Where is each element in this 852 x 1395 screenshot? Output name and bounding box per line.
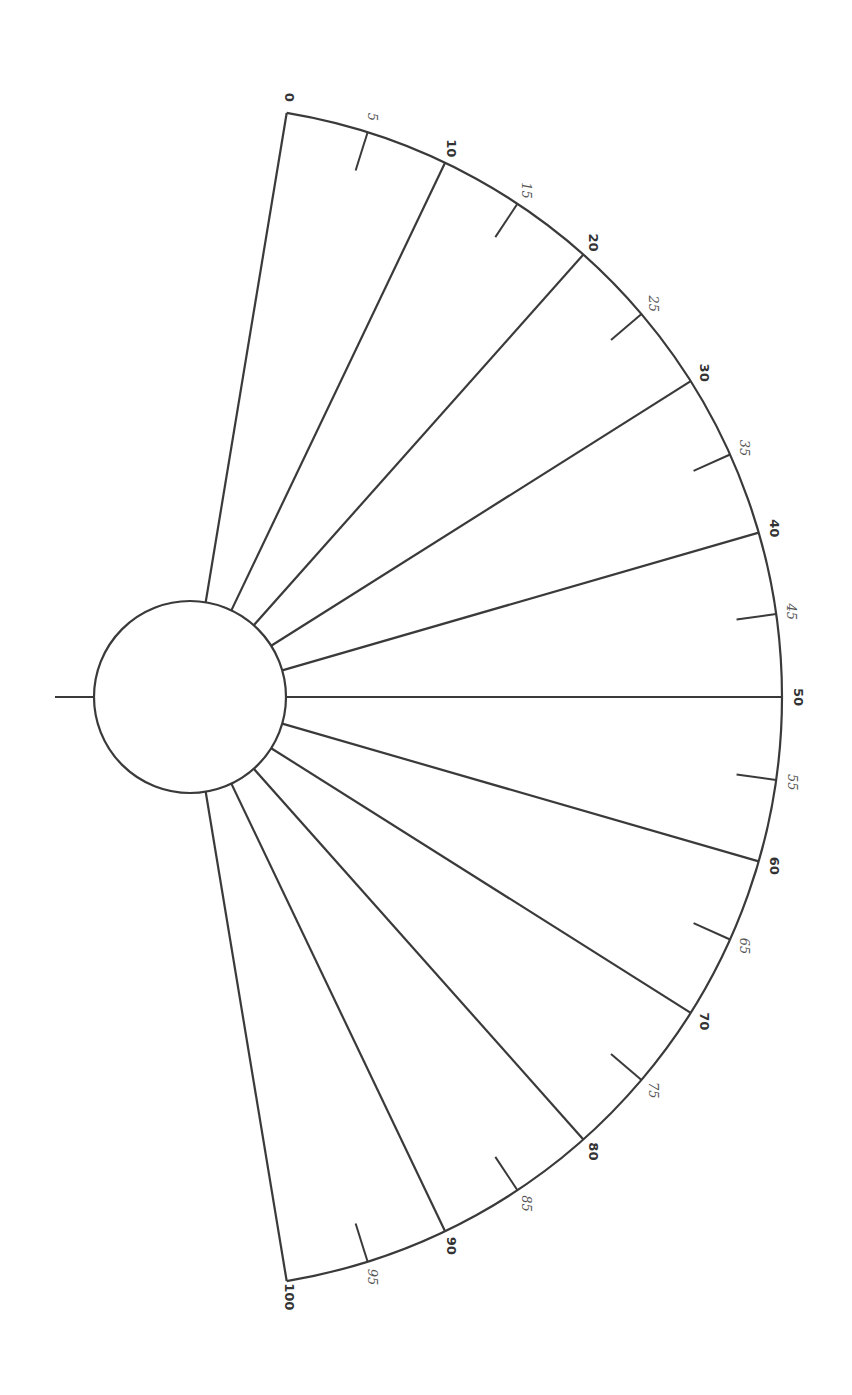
- minor-label-65: 65: [737, 938, 752, 955]
- minor-tick-65: [694, 923, 730, 939]
- minor-label-5: 5: [365, 113, 380, 121]
- major-label-20: 20: [586, 234, 601, 252]
- minor-label-45: 45: [784, 602, 799, 620]
- minor-tick-5: [356, 132, 368, 170]
- minor-tick-35: [694, 455, 730, 471]
- scale-dial: 0102030405060708090100515253545556575859…: [0, 0, 852, 1395]
- minor-tick-85: [495, 1157, 517, 1190]
- minor-tick-45: [737, 614, 777, 620]
- major-label-90: 90: [444, 1237, 459, 1255]
- major-label-70: 70: [697, 1012, 712, 1030]
- minor-tick-55: [737, 774, 777, 780]
- minor-label-15: 15: [519, 182, 534, 199]
- major-spoke-20: [254, 255, 584, 626]
- major-spoke-60: [282, 724, 758, 862]
- major-label-30: 30: [697, 364, 712, 382]
- spokes-group: [206, 113, 782, 1281]
- minor-tick-25: [611, 314, 642, 340]
- minor-label-85: 85: [519, 1195, 534, 1212]
- minor-label-35: 35: [737, 440, 752, 457]
- minor-tick-95: [356, 1224, 368, 1262]
- major-spoke-90: [231, 784, 445, 1232]
- major-spoke-100: [206, 792, 287, 1281]
- major-label-60: 60: [767, 857, 782, 875]
- major-label-50: 50: [791, 688, 806, 706]
- major-spoke-0: [206, 113, 287, 602]
- minor-label-55: 55: [784, 774, 799, 791]
- center-hub-circle: [94, 601, 286, 793]
- major-label-0: 0: [282, 93, 297, 102]
- minor-label-25: 25: [646, 294, 661, 312]
- major-label-100: 100: [282, 1283, 297, 1310]
- major-label-10: 10: [444, 139, 459, 157]
- minor-label-75: 75: [646, 1082, 661, 1099]
- major-spoke-70: [271, 748, 691, 1013]
- major-spoke-40: [282, 533, 758, 671]
- minor-label-95: 95: [365, 1269, 380, 1286]
- protractor-diagram: 0102030405060708090100515253545556575859…: [0, 0, 852, 1395]
- scale-labels-group: 0102030405060708090100515253545556575859…: [282, 93, 806, 1311]
- major-spoke-30: [271, 381, 691, 646]
- major-label-40: 40: [767, 519, 782, 537]
- minor-tick-75: [611, 1054, 642, 1080]
- major-label-80: 80: [586, 1142, 601, 1160]
- minor-tick-15: [495, 204, 517, 237]
- major-spoke-80: [254, 769, 584, 1140]
- major-spoke-10: [231, 163, 445, 611]
